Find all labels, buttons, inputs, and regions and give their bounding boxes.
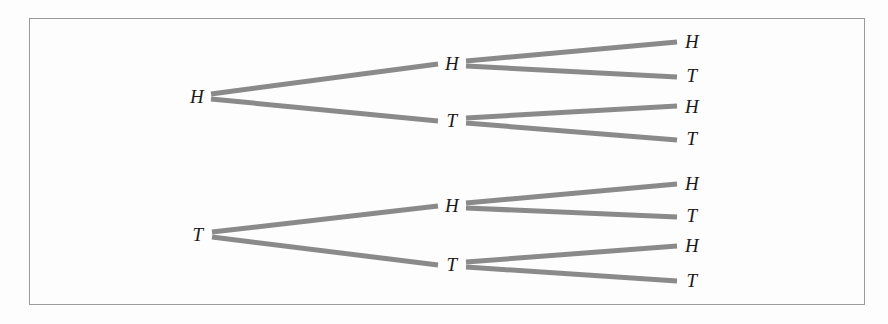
tree-node-label: T	[193, 225, 204, 244]
tree-node-label: H	[190, 87, 204, 106]
tree-node-label: T	[687, 206, 698, 225]
tree-node-label: T	[447, 255, 458, 274]
tree-diagram-figure: HTHTHTHTHTHTHT	[0, 0, 888, 324]
tree-node-label: T	[687, 66, 698, 85]
tree-node-label: H	[685, 97, 699, 116]
tree-node-label: H	[685, 174, 699, 193]
tree-node-label: T	[687, 271, 698, 290]
tree-node-label: H	[685, 32, 699, 51]
tree-node-label: T	[687, 129, 698, 148]
tree-node-label: H	[685, 236, 699, 255]
tree-node-label: T	[447, 111, 458, 130]
tree-node-label: H	[445, 54, 459, 73]
tree-node-label: H	[445, 196, 459, 215]
